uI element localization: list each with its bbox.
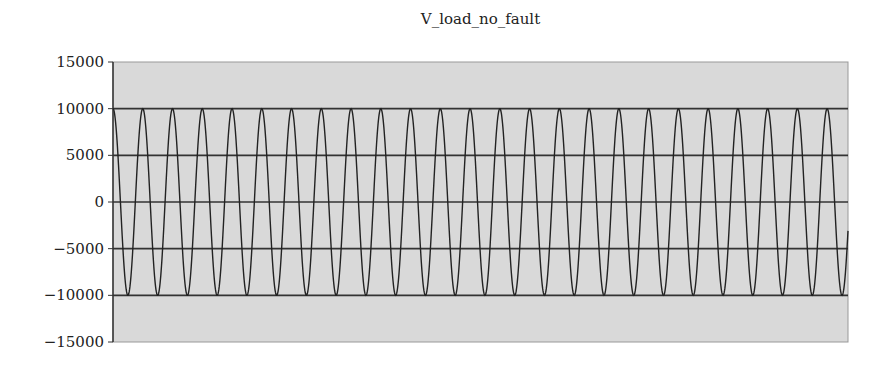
y-tick-label: 15000: [56, 53, 104, 71]
line-chart: 150001000050000−5000−10000−15000: [0, 0, 889, 376]
y-tick-label: 10000: [56, 100, 104, 118]
y-tick-label: 0: [94, 193, 104, 211]
y-tick-label: −10000: [44, 286, 104, 304]
y-tick-label: −5000: [53, 240, 104, 258]
y-tick-label: −15000: [44, 333, 104, 351]
y-tick-label: 5000: [66, 146, 104, 164]
